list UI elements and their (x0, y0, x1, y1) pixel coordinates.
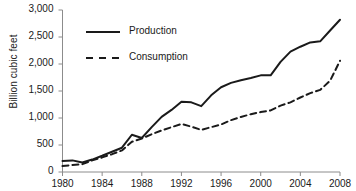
y-axis-tick-label: 1,500 (0, 84, 54, 95)
y-axis-tick-label: 1,000 (0, 111, 54, 122)
legend-label-production: Production (129, 25, 177, 36)
y-axis-tick-label: 2,000 (0, 57, 54, 68)
series-line-production (63, 20, 341, 163)
chart-legend (86, 32, 120, 58)
chart-series (63, 20, 341, 166)
series-line-consumption (63, 61, 341, 166)
legend-label-consumption: Consumption (129, 51, 188, 62)
y-axis-tick-label: 2,500 (0, 30, 54, 41)
x-axis-tick-label: 2008 (315, 178, 356, 189)
y-axis-tick-label: 0 (0, 165, 54, 176)
y-axis-tick-label: 500 (0, 138, 54, 149)
chart-axes (59, 10, 341, 176)
y-axis-tick-label: 3,000 (0, 3, 54, 14)
